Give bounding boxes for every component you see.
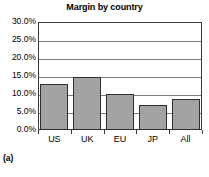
chart-figure: Margin by country 30.0%25.0%20.0%15.0%10…	[0, 0, 209, 177]
gridline	[39, 113, 201, 114]
plot-area	[38, 22, 202, 130]
y-tick-label: 30.0%	[0, 17, 36, 26]
x-tick-label: UK	[71, 134, 103, 145]
y-axis: 30.0%25.0%20.0%15.0%10.0%5.0%0.0%	[0, 22, 36, 130]
gridline	[39, 41, 201, 42]
x-axis-labels: USUKEUJPAll	[38, 134, 202, 145]
x-tick-label: US	[38, 134, 70, 145]
y-tick-label: 15.0%	[0, 71, 36, 80]
gridline	[39, 95, 201, 96]
y-tick-label: 10.0%	[0, 89, 36, 98]
chart-title: Margin by country	[0, 1, 209, 13]
y-tick-label: 0.0%	[0, 125, 36, 134]
gridline	[39, 59, 201, 60]
x-tick-mark	[202, 130, 203, 134]
y-tick-label: 5.0%	[0, 107, 36, 116]
x-tick-label: All	[170, 134, 202, 145]
y-tick-label: 25.0%	[0, 35, 36, 44]
x-tick-label: EU	[104, 134, 136, 145]
y-tick-label: 20.0%	[0, 53, 36, 62]
gridline	[39, 77, 201, 78]
figure-caption: (a)	[3, 153, 13, 163]
x-tick-label: JP	[137, 134, 169, 145]
